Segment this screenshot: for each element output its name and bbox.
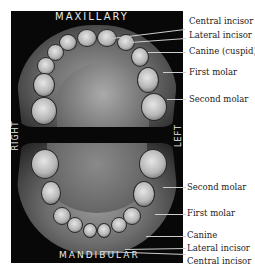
lower-tooth [41, 181, 61, 205]
callout-lateral-incisor-lower: Lateral incisor [187, 243, 250, 253]
callout-canine-lower: Canine [187, 230, 217, 240]
left-label: LEFT [174, 124, 183, 147]
callout-central-incisor-upper: Central incisor [189, 16, 253, 26]
callout-second-molar-upper: Second molar [189, 94, 248, 104]
callout-first-molar-lower: First molar [187, 208, 235, 218]
lower-tooth [83, 223, 97, 238]
leader-line [163, 187, 186, 188]
lower-tooth [31, 149, 59, 179]
callout-canine-upper: Canine (cuspid) [189, 46, 255, 56]
callout-second-molar-lower: Second molar [187, 182, 246, 192]
leader-line [167, 99, 186, 100]
upper-tooth [77, 29, 97, 47]
callout-central-incisor-lower: Central incisor [187, 256, 251, 266]
lower-tooth [139, 149, 167, 179]
upper-tooth [137, 67, 159, 93]
palate [57, 63, 149, 141]
upper-tooth [33, 73, 55, 97]
tongue-area [47, 143, 147, 213]
lower-tooth [111, 217, 127, 233]
leader-line [163, 72, 186, 73]
leader-line [155, 214, 186, 215]
leader-line [148, 52, 186, 53]
maxillary-label: MAXILLARY [55, 11, 129, 22]
upper-tooth [131, 47, 149, 67]
lower-tooth [133, 181, 155, 207]
callout-first-molar-upper: First molar [189, 67, 237, 77]
callout-lateral-incisor-upper: Lateral incisor [189, 30, 252, 40]
upper-tooth [141, 93, 167, 121]
upper-tooth [31, 97, 57, 125]
leader-line [146, 236, 186, 237]
dental-arch-photograph: MAXILLARY MANDIBULAR RIGHT LEFT [11, 11, 183, 263]
lower-tooth [97, 223, 111, 238]
right-label: RIGHT [11, 120, 20, 150]
lower-tooth [67, 217, 83, 233]
